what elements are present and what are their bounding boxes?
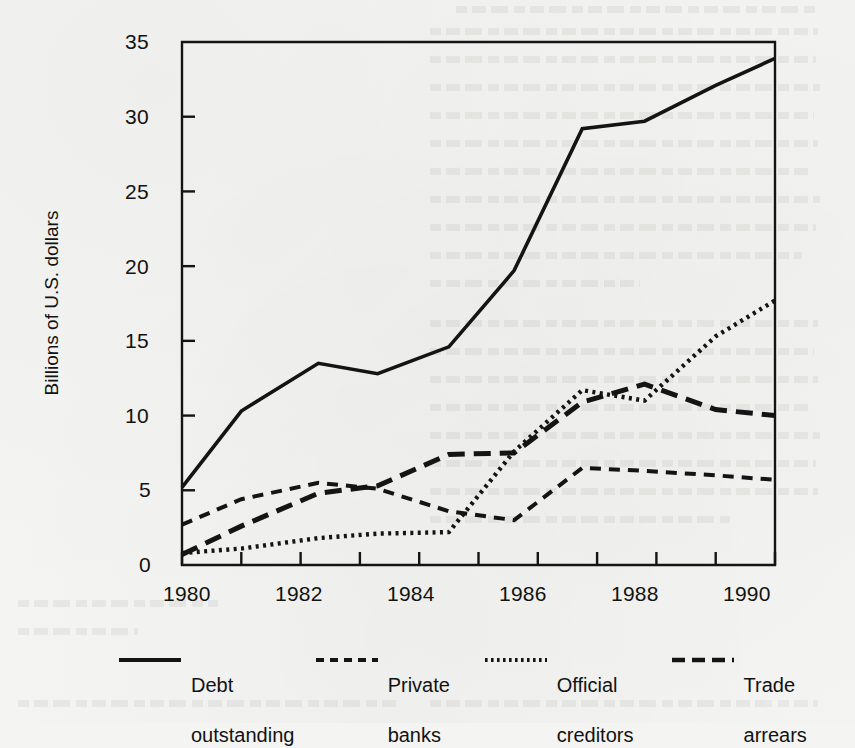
- legend-swatch-dashed-icon: [315, 650, 379, 670]
- legend-entry-private-banks[interactable]: Private banks: [315, 648, 484, 748]
- series-line-private: [182, 468, 775, 525]
- y-axis-ticks: [182, 117, 195, 491]
- legend-label-line1: Debt: [191, 674, 233, 696]
- series-line-trade: [182, 384, 775, 554]
- legend-label-line1: Trade: [744, 674, 796, 696]
- legend-label-line2: arrears: [744, 724, 807, 746]
- legend-swatch-longdash-icon: [671, 650, 735, 670]
- legend-swatch-solid-icon: [118, 650, 182, 670]
- legend-entry-official-creditors[interactable]: Official creditors: [484, 648, 671, 748]
- legend-label-line1: Private: [388, 674, 450, 696]
- legend-label-line1: Official: [557, 674, 618, 696]
- axis-frame: [182, 42, 775, 565]
- legend-label-line2: outstanding: [191, 724, 294, 746]
- series-line-debt: [182, 58, 775, 487]
- legend-label-line2: banks: [388, 724, 441, 746]
- legend-entry-trade-arrears[interactable]: Trade arrears: [671, 648, 818, 748]
- legend-swatch-dotted-icon: [484, 650, 548, 670]
- chart-legend: Debt outstanding Private banks Official …: [118, 648, 818, 748]
- legend-entry-debt-outstanding[interactable]: Debt outstanding: [118, 648, 315, 748]
- legend-label-line2: creditors: [557, 724, 634, 746]
- series-layer: [182, 58, 775, 554]
- x-axis-ticks: [182, 552, 775, 565]
